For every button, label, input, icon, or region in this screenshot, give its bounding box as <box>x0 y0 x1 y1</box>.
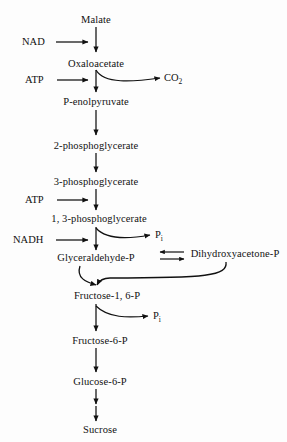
node-oxaloacetate: Oxaloacetate <box>68 58 124 70</box>
byproduct-pi-1-subscript: i <box>161 234 163 243</box>
byproduct-pi-2-subscript: i <box>159 315 161 324</box>
node-glyceraldehyde-p: Glyceraldehyde-P <box>57 252 134 264</box>
cofactor-atp-1: ATP <box>25 74 44 86</box>
pathway-diagram: Malate Oxaloacetate P-enolpyruvate 2-pho… <box>0 0 287 442</box>
cofactor-nadh: NADH <box>13 234 43 246</box>
byproduct-co2-subscript: 2 <box>179 77 183 86</box>
node-fructose-6-p: Fructose-6-P <box>72 335 127 347</box>
node-p-enolpyruvate: P-enolpyruvate <box>63 96 129 108</box>
arrow-co2-release <box>96 70 160 81</box>
arrow-gap-to-fbp <box>79 266 96 285</box>
arrow-pi2-release <box>96 306 148 317</box>
node-1-3-phosphoglycerate: 1, 3-phosphoglycerate <box>51 213 146 225</box>
node-malate: Malate <box>81 14 111 26</box>
node-fructose-1-6-p: Fructose-1, 6-P <box>74 290 140 302</box>
node-2-phosphoglycerate: 2-phosphoglycerate <box>54 140 139 152</box>
cofactor-atp-2: ATP <box>25 194 44 206</box>
cofactor-nad: NAD <box>22 36 45 48</box>
node-sucrose: Sucrose <box>83 424 117 436</box>
byproduct-co2: CO2 <box>164 72 182 84</box>
arrow-dhap-to-fbp <box>97 262 226 285</box>
node-glucose-6-p: Glucose-6-P <box>73 376 127 388</box>
byproduct-pi-2: Pi <box>153 310 161 322</box>
arrow-pi1-release <box>96 228 150 238</box>
node-dihydroxyacetone-p: Dihydroxyacetone-P <box>191 248 280 260</box>
byproduct-pi-1: Pi <box>155 229 163 241</box>
byproduct-co2-text: CO <box>164 72 179 83</box>
node-3-phosphoglycerate: 3-phosphoglycerate <box>54 176 139 188</box>
